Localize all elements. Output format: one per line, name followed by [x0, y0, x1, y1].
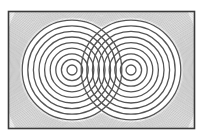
diagram-canvas — [0, 0, 200, 138]
interference-diagram — [0, 0, 200, 138]
